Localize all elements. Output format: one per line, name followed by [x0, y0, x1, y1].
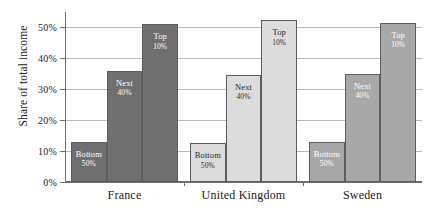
bar-label-main: Top: [391, 30, 405, 41]
bar[interactable]: Bottom50%: [309, 142, 345, 182]
bar-label: Next40%: [116, 78, 133, 98]
y-axis-title: Share of total income: [17, 1, 29, 151]
category-label: United Kingdom: [184, 188, 303, 203]
bar[interactable]: Top10%: [261, 20, 297, 182]
y-tick-label: 30%: [38, 84, 57, 95]
bar-label-main: Next: [116, 78, 133, 89]
bar-label-sub: 10%: [272, 38, 286, 47]
bar-label: Next40%: [235, 82, 252, 102]
bar[interactable]: Next40%: [345, 74, 381, 182]
bar-label: Top10%: [391, 30, 405, 50]
bar-label: Bottom50%: [76, 149, 102, 169]
bar[interactable]: Top10%: [142, 24, 178, 182]
group-divider-tick: [303, 181, 304, 186]
bar[interactable]: Next40%: [226, 75, 262, 182]
y-tick-label: 10%: [38, 146, 57, 157]
y-tick-label: 40%: [38, 53, 57, 64]
bar-label: Top10%: [272, 27, 286, 47]
bar-label-sub: 10%: [153, 42, 167, 51]
bar-label-sub: 40%: [116, 88, 133, 97]
bar-label-sub: 50%: [314, 159, 340, 168]
bar-label-main: Bottom: [314, 149, 340, 160]
bar-label-sub: 40%: [354, 91, 371, 100]
group-divider-tick: [184, 181, 185, 186]
y-tick-label: 20%: [38, 115, 57, 126]
gridline: [65, 182, 422, 183]
bar-label-sub: 50%: [195, 161, 221, 170]
category-label: France: [65, 188, 184, 203]
bar-label: Top10%: [153, 31, 167, 51]
y-tick-label: 50%: [38, 22, 57, 33]
bar-label-sub: 50%: [76, 159, 102, 168]
bar[interactable]: Bottom50%: [190, 143, 226, 182]
bar-label-main: Next: [235, 82, 252, 93]
bar-label: Next40%: [354, 81, 371, 101]
plot-area: 0%10%20%30%40%50% Bottom50%Next40%Top10%…: [65, 12, 422, 182]
bar[interactable]: Bottom50%: [71, 142, 107, 182]
bar-label-sub: 40%: [235, 92, 252, 101]
bar-label-main: Bottom: [76, 149, 102, 160]
bar-group: Bottom50%Next40%Top10%: [65, 12, 184, 182]
bar-label: Bottom50%: [195, 150, 221, 170]
y-tick-label: 0%: [43, 177, 57, 188]
y-tick-mark: [60, 182, 66, 183]
bar-group: Bottom50%Next40%Top10%: [303, 12, 422, 182]
bar-label-main: Bottom: [195, 150, 221, 161]
bar[interactable]: Next40%: [107, 71, 143, 182]
bar-label: Bottom50%: [314, 149, 340, 169]
bar-group: Bottom50%Next40%Top10%: [184, 12, 303, 182]
bar-chart: Share of total income 0%10%20%30%40%50% …: [0, 0, 429, 212]
bar-label-sub: 10%: [391, 40, 405, 49]
bar-label-main: Top: [153, 31, 167, 42]
bar[interactable]: Top10%: [380, 23, 416, 182]
bar-label-main: Top: [272, 27, 286, 38]
category-label: Sweden: [303, 188, 422, 203]
bar-label-main: Next: [354, 81, 371, 92]
